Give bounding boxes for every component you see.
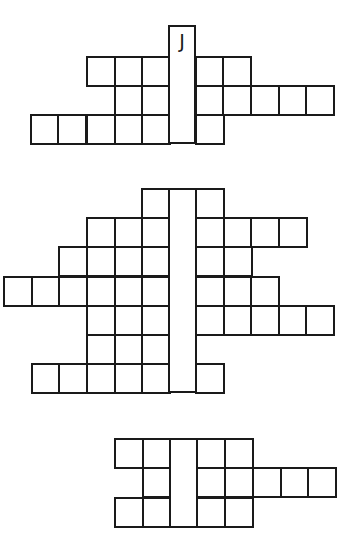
crossword-cell[interactable]	[141, 85, 171, 116]
crossword-cell[interactable]	[86, 305, 116, 336]
crossword-cell[interactable]	[114, 438, 144, 469]
crossword-cell[interactable]	[223, 246, 253, 277]
crossword-cell[interactable]	[222, 56, 252, 87]
crossword-cell[interactable]	[223, 305, 253, 336]
crossword-cell[interactable]	[57, 114, 87, 145]
column-letter: J	[170, 30, 194, 52]
crossword-cell[interactable]	[114, 276, 144, 307]
crossword-cell[interactable]	[141, 305, 171, 336]
crossword-cell[interactable]	[3, 276, 33, 307]
crossword-cell[interactable]	[86, 246, 116, 277]
crossword-cell[interactable]	[250, 85, 280, 116]
crossword-cell[interactable]	[196, 438, 226, 469]
crossword-cell[interactable]	[141, 217, 171, 248]
crossword-cell[interactable]	[250, 305, 280, 336]
crossword-cell[interactable]	[195, 363, 225, 394]
crossword-cell[interactable]	[114, 114, 144, 145]
crossword-cell[interactable]	[141, 363, 171, 394]
crossword-cell[interactable]	[195, 85, 225, 116]
crossword-cell[interactable]	[196, 497, 226, 528]
crossword-cell[interactable]	[195, 188, 225, 219]
crossword-cell[interactable]	[224, 438, 254, 469]
crossword-cell[interactable]	[142, 467, 172, 498]
crossword-cell[interactable]	[280, 467, 310, 498]
crossword-cell[interactable]	[223, 276, 253, 307]
crossword-cell[interactable]	[141, 334, 171, 365]
vertical-answer-column[interactable]: J	[168, 25, 196, 144]
crossword-cell[interactable]	[141, 276, 171, 307]
crossword-cell[interactable]	[31, 363, 61, 394]
crossword-cell[interactable]	[195, 56, 225, 87]
crossword-cell[interactable]	[195, 305, 225, 336]
crossword-cell[interactable]	[141, 246, 171, 277]
crossword-cell[interactable]	[31, 276, 61, 307]
crossword-cell[interactable]	[114, 246, 144, 277]
crossword-cell[interactable]	[252, 467, 282, 498]
crossword-cell[interactable]	[86, 56, 116, 87]
crossword-cell[interactable]	[142, 497, 172, 528]
crossword-cell[interactable]	[223, 217, 253, 248]
crossword-cell[interactable]	[114, 85, 144, 116]
crossword-cell[interactable]	[141, 188, 171, 219]
crossword-cell[interactable]	[58, 246, 88, 277]
crossword-cell[interactable]	[196, 467, 226, 498]
crossword-cell[interactable]	[305, 85, 335, 116]
crossword-cell[interactable]	[86, 114, 116, 145]
crossword-cell[interactable]	[250, 217, 280, 248]
crossword-cell[interactable]	[305, 305, 335, 336]
crossword-cell[interactable]	[114, 334, 144, 365]
crossword-cell[interactable]	[141, 114, 171, 145]
crossword-cell[interactable]	[141, 56, 171, 87]
crossword-cell[interactable]	[195, 217, 225, 248]
crossword-cell[interactable]	[114, 305, 144, 336]
vertical-answer-column[interactable]	[168, 188, 197, 393]
crossword-cell[interactable]	[195, 276, 225, 307]
crossword-cell[interactable]	[224, 497, 254, 528]
crossword-cell[interactable]	[278, 85, 308, 116]
crossword-cell[interactable]	[278, 305, 308, 336]
crossword-cell[interactable]	[250, 276, 280, 307]
crossword-cell[interactable]	[58, 276, 88, 307]
crossword-cell[interactable]	[114, 217, 144, 248]
crossword-cell[interactable]	[30, 114, 60, 145]
crossword-cell[interactable]	[58, 363, 88, 394]
crossword-cell[interactable]	[222, 85, 252, 116]
crossword-cell[interactable]	[114, 56, 144, 87]
crossword-cell[interactable]	[195, 114, 225, 145]
crossword-cell[interactable]	[224, 467, 254, 498]
crossword-cell[interactable]	[86, 276, 116, 307]
crossword-cell[interactable]	[114, 363, 144, 394]
crossword-cell[interactable]	[114, 497, 144, 528]
vertical-answer-column[interactable]	[169, 438, 198, 528]
crossword-cell[interactable]	[278, 217, 308, 248]
crossword-cell[interactable]	[86, 363, 116, 394]
crossword-cell[interactable]	[142, 438, 172, 469]
crossword-cell[interactable]	[195, 246, 225, 277]
crossword-cell[interactable]	[307, 467, 337, 498]
crossword-cell[interactable]	[86, 217, 116, 248]
crossword-cell[interactable]	[86, 334, 116, 365]
